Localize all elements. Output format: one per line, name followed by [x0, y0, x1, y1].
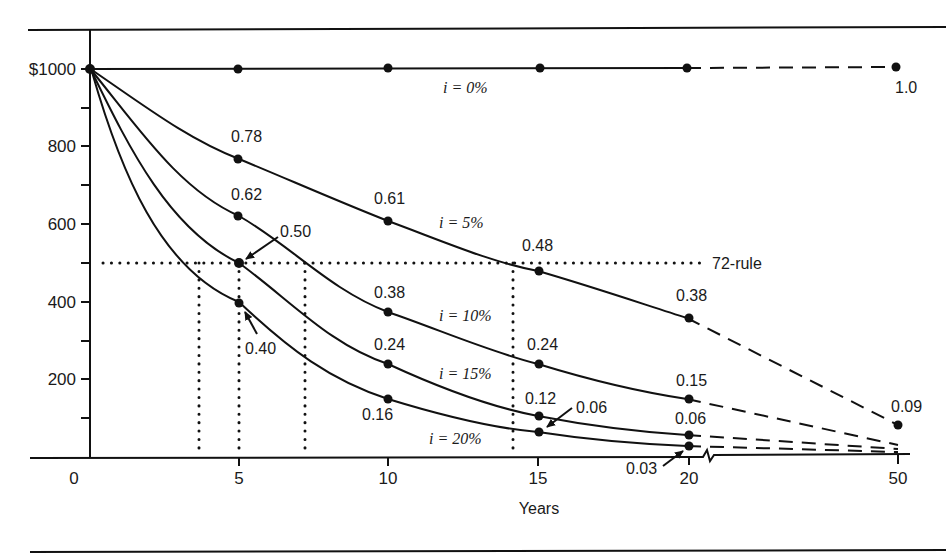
- series-i0-extrapolation: [687, 67, 896, 68]
- value-label: 0.40: [245, 340, 276, 357]
- series-i20-extrapolation: [687, 446, 898, 452]
- y-tick-600: 600: [48, 215, 76, 234]
- x-tick-5: 5: [234, 469, 243, 488]
- value-label: 1.0: [895, 79, 917, 96]
- value-label: 0.09: [891, 398, 922, 415]
- data-points: [85, 63, 903, 451]
- arrow-icon: [663, 451, 683, 466]
- arrow-icon: [246, 237, 278, 259]
- value-label: 0.61: [374, 190, 405, 207]
- series-label-i5: i = 5%: [439, 214, 484, 231]
- value-label: 0.48: [522, 237, 553, 254]
- value-label: 0.62: [231, 186, 262, 203]
- y-tick-400: 400: [48, 293, 76, 312]
- rule-72-label: 72-rule: [712, 255, 762, 272]
- x-tick-0: 0: [69, 469, 78, 488]
- series-i5-extrapolation: [687, 318, 898, 425]
- y-tick-200: 200: [48, 370, 76, 389]
- series-label-i20: i = 20%: [429, 430, 482, 447]
- present-value-chart: $1000 800 600 400 200 0 5 10 15 20 50 Ye…: [0, 0, 949, 555]
- value-label: 0.12: [525, 390, 556, 407]
- bottom-rule: [30, 550, 946, 552]
- x-axis-title: Years: [519, 500, 559, 517]
- x-tick-20: 20: [680, 469, 699, 488]
- x-tick-50: 50: [889, 469, 908, 488]
- x-ticks: [239, 454, 898, 466]
- x-tick-10: 10: [379, 469, 398, 488]
- value-label: 0.24: [374, 336, 405, 353]
- series-label-i0: i = 0%: [443, 79, 488, 96]
- series-label-i15: i = 15%: [439, 365, 492, 382]
- x-tick-15: 15: [529, 469, 548, 488]
- y-ticks: [81, 69, 90, 418]
- value-label: 0.24: [527, 336, 558, 353]
- value-label: 0.78: [231, 128, 262, 145]
- series-i20-line: [92, 72, 687, 446]
- series-label-i10: i = 10%: [439, 307, 492, 324]
- arrow-icon: [245, 312, 257, 334]
- value-label: 0.38: [676, 287, 707, 304]
- value-label: 0.15: [676, 372, 707, 389]
- y-tick-800: 800: [48, 137, 76, 156]
- value-label: 0.50: [280, 223, 311, 240]
- value-label: 0.38: [374, 284, 405, 301]
- y-tick-1000: $1000: [29, 60, 76, 79]
- value-label: 0.16: [362, 406, 393, 423]
- top-rule: [28, 27, 946, 30]
- x-axis: [30, 457, 695, 458]
- value-label: 0.06: [675, 410, 706, 427]
- value-label: 0.06: [576, 399, 607, 416]
- value-label: 0.03: [626, 460, 657, 477]
